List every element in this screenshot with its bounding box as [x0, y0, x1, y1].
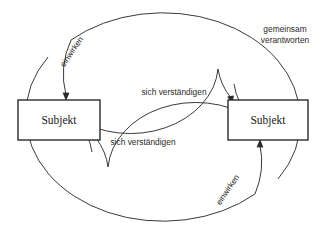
edge-label-inner-top: sich verständigen [141, 87, 207, 97]
edge-label-inner-bottom: sich verständigen [110, 137, 176, 147]
diagram-svg: Subjekt Subjekt einwirken einwirken sich… [0, 0, 331, 236]
node-subjekt-right[interactable]: Subjekt [228, 100, 308, 140]
outer-loop-caption-line1: gemeinsam [263, 24, 306, 34]
edge-label-outer-bottom-right: einwirken [214, 173, 241, 207]
node-subjekt-right-label: Subjekt [250, 114, 286, 127]
diagram-canvas: Subjekt Subjekt einwirken einwirken sich… [0, 0, 331, 236]
node-subjekt-left-label: Subjekt [41, 114, 77, 127]
node-subjekt-left[interactable]: Subjekt [18, 100, 100, 140]
outer-loop-caption: gemeinsam verantworten [261, 24, 310, 45]
outer-loop-caption-line2: verantworten [261, 35, 310, 45]
